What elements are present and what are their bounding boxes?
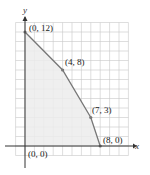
label-origin: (0, 0) — [28, 149, 48, 159]
label-point-7-3: (7, 3) — [92, 105, 112, 115]
vertex-point — [89, 116, 92, 119]
y-axis-label: y — [22, 5, 27, 15]
y-axis-arrow-icon — [23, 16, 28, 21]
label-point-8-0: (8, 0) — [103, 135, 123, 145]
label-point-0-12: (0, 12) — [29, 23, 53, 33]
label-point-4-8: (4, 8) — [65, 57, 85, 67]
vertex-point — [61, 68, 64, 71]
feasible-region-chart: x y (0, 12) (4, 8) (7, 3) (8, 0) (0, 0) — [0, 0, 150, 175]
x-axis-label: x — [134, 141, 139, 151]
